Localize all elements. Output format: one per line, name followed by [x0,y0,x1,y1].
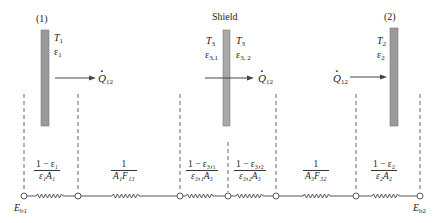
shield-label: Shield [212,12,238,22]
heat-flow-arrow-1 [55,76,96,81]
plate-2 [390,28,398,126]
plate-2-emissivity: ε2 [377,50,385,63]
node-j31 [177,193,183,199]
resistance-surface-2: 1 − ε₂ ε₂A₂ [371,159,397,182]
resistance-space-32: 1 A₃F₃₂ [303,159,329,182]
shield-right-emissivity: ε3, 2 [236,50,251,63]
resistance-space-13: 1 A₁F₁₃ [111,159,137,182]
heat-flow-arrow-2 [350,75,387,80]
node-eb3 [225,193,231,199]
plate-1-label: (1) [36,14,48,24]
shield-left-temperature: T3 [206,36,215,49]
node-j1 [75,193,81,199]
plate-1 [41,30,49,126]
plate-2-temperature: T2 [377,36,386,49]
shield-left-emissivity: ε3,1 [205,50,218,63]
plate-1-temperature: T1 [54,33,63,46]
node-j2 [353,193,359,199]
node-label-eb2: Eb2 [413,203,426,216]
plate-2-label: (2) [384,12,396,22]
node-eb1 [21,193,27,199]
dashed-guides [24,94,420,192]
node-label-eb1: Eb1 [14,203,27,216]
node-eb2 [417,193,423,199]
resistance-surface-1: 1 − ε₁ ε₁A₁ [34,159,60,182]
shield-right-temperature: T3 [236,36,245,49]
heat-rate-label-shield: Q12 [258,72,273,86]
resistance-surface-32: 1 − ε₃,₂ ε₃,₂A₃ [234,159,266,182]
plate-1-emissivity: ε1 [54,47,62,60]
node-j32 [273,193,279,199]
heat-rate-label-1: Q12 [98,72,113,86]
resistance-surface-31: 1 − ε₃,₁ ε₃,₁A₃ [186,159,218,182]
heat-rate-label-2: Q12 [333,72,348,86]
diagram-canvas [0,0,445,223]
